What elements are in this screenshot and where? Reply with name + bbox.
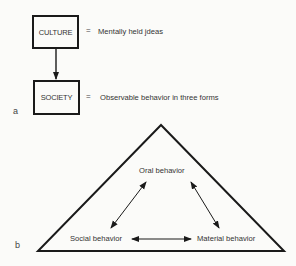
oral-material-arrow [191,182,219,228]
node-social-behavior: Social behavior [70,234,122,243]
panel-a-label: a [13,106,18,116]
society-box-label: SOCIETY [41,93,73,102]
culture-definition: Mentally held jdeas [98,27,163,36]
oral-social-arrow [111,182,146,228]
panel-b-label: b [15,240,20,250]
culture-equals: = [86,26,91,35]
society-box: SOCIETY [33,80,80,115]
node-oral-behavior: Oral behavior [139,166,185,175]
triangle [38,125,284,251]
society-definition: Observable behavior in three forms [100,93,219,102]
culture-box: CULTURE [32,15,79,49]
society-equals: = [86,92,91,101]
node-material-behavior: Material behavior [197,234,255,243]
culture-box-label: CULTURE [39,28,72,37]
